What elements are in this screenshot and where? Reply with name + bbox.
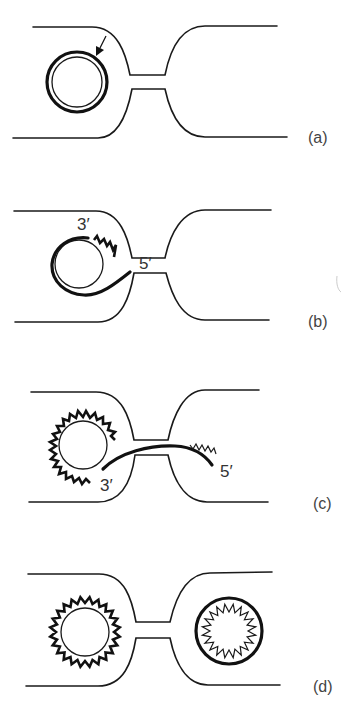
transferring-strand	[103, 446, 212, 469]
panel-label-a: (a)	[308, 129, 328, 146]
panel-label-d: (d)	[313, 678, 333, 695]
donor-cell-outline	[13, 26, 287, 138]
panel-b: 3′ 5′ (b)	[14, 210, 341, 330]
three-prime-label: 3′	[77, 215, 90, 234]
panel-label-b: (b)	[308, 313, 328, 330]
panel-label-c: (c)	[313, 495, 332, 512]
five-prime-label: 5′	[220, 462, 233, 481]
cell-outline	[26, 572, 280, 686]
donor-plasmid-replicating	[50, 411, 115, 484]
cell-outline	[29, 390, 268, 502]
donor-plasmid-double-stranded	[50, 597, 119, 666]
donor-plasmid	[47, 52, 107, 112]
nick-arrow-icon	[96, 36, 106, 56]
recipient-plasmid-double-stranded	[196, 598, 262, 664]
panel-c: 3′ 5′ (c)	[29, 390, 332, 512]
conjugation-diagram: (a) 3′ 5′ (b) 3′ 5′ (c)	[0, 0, 345, 719]
stray-mark	[337, 276, 341, 292]
panel-d: (d)	[26, 572, 333, 695]
five-prime-label: 5′	[139, 254, 152, 273]
panel-a: (a)	[13, 26, 328, 146]
donor-plasmid-unwinding	[52, 236, 130, 295]
three-prime-label: 3′	[100, 476, 113, 495]
